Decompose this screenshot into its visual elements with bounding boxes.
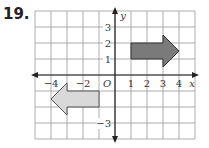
- x-tick-label: 4: [176, 78, 182, 89]
- y-tick-label: 1: [105, 54, 111, 65]
- x-axis-left-arrow-icon: [31, 72, 38, 78]
- original-arrow: [131, 35, 179, 67]
- y-tick-label: 3: [105, 22, 111, 33]
- x-tick-label: −4: [44, 78, 59, 89]
- y-axis-label: y: [119, 10, 126, 21]
- x-tick-label: 3: [160, 78, 166, 89]
- x-tick-label: −2: [76, 78, 91, 89]
- x-tick-label: 2: [144, 78, 150, 89]
- y-tick-label: −3: [96, 118, 111, 129]
- coordinate-grid: −4−21234321−3Oxy: [0, 0, 209, 148]
- y-axis-down-arrow-icon: [112, 136, 118, 143]
- x-tick-label: 1: [128, 78, 134, 89]
- y-tick-label: 2: [105, 38, 111, 49]
- x-axis-label: x: [189, 78, 195, 89]
- origin-label: O: [103, 78, 111, 89]
- y-axis-up-arrow-icon: [112, 7, 118, 14]
